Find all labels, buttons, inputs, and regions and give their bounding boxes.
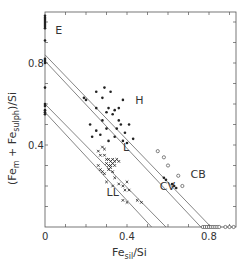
data-points [44,15,236,229]
data-point [156,150,159,153]
data-point [113,177,116,180]
data-point [132,138,135,141]
data-point [99,154,102,157]
data-point [228,225,231,228]
data-point [95,90,98,93]
data-point [101,119,104,122]
data-point [113,164,116,167]
data-point [85,99,88,102]
data-point [118,107,121,110]
data-point [107,107,110,110]
data-point [105,127,108,130]
data-point [44,86,47,89]
y-tick-label: 0.4 [28,140,44,151]
data-point [120,123,123,126]
data-point [44,62,47,65]
data-point [103,148,106,151]
y-axis-label: (Fem + Fesulph)/Si [6,92,21,185]
data-point [44,27,47,30]
data-point [136,199,139,202]
data-point [166,164,169,167]
data-point [99,133,102,136]
data-point [122,185,125,188]
data-point [218,225,221,228]
data-point [122,199,125,202]
data-point [177,174,180,177]
data-point [83,97,86,100]
data-point [97,164,100,167]
data-point [124,131,127,134]
data-point [181,184,184,187]
x-tick-label: 0 [42,231,48,242]
reference-line [45,112,152,227]
data-point [163,177,166,180]
data-point [105,181,108,184]
axis-ticks [45,12,236,227]
plot-frame [45,12,236,227]
y-tick-label: 0.8 [28,58,44,69]
data-point [232,225,235,228]
data-point [122,99,125,102]
group-label: LL [107,186,120,199]
data-point [115,127,118,130]
data-point [44,105,47,108]
data-point [126,201,129,204]
data-point [97,150,100,153]
data-point [103,172,106,175]
data-point [103,154,106,157]
x-tick-label: 0.4 [119,231,135,242]
data-point [162,156,165,159]
group-label: H [135,94,143,107]
data-point [44,39,47,42]
data-point [128,123,131,126]
x-tick-label: 0.8 [201,231,217,242]
group-label: CB [191,168,206,181]
data-point [118,183,121,186]
x-axis-label: Fesil/Si [112,246,147,261]
reference-line [45,104,166,227]
data-point [44,113,47,116]
data-point [111,113,114,116]
group-labels: EHLLLCVCB [55,24,206,199]
group-label: CV [160,180,176,193]
data-point [91,136,94,139]
scatter-chart: 00.40.8 0.40.8 EHLLLCVCB Fesil/Si (Fem +… [0,0,249,272]
data-point [118,160,121,163]
data-point [101,97,104,100]
data-point [109,90,112,93]
data-point [95,129,98,132]
y-tick-labels: 0.40.8 [28,58,44,151]
data-point [175,187,178,190]
data-point [118,119,121,122]
group-label: L [123,141,130,154]
data-point [89,123,92,126]
data-point [107,140,110,143]
data-point [95,107,98,110]
data-point [126,181,129,184]
x-tick-labels: 00.40.8 [42,231,217,242]
data-point [105,111,108,114]
data-point [113,136,116,139]
data-point [103,86,106,89]
data-point [124,189,127,192]
data-point [224,225,227,228]
data-point [113,109,116,112]
group-label: E [55,24,62,37]
